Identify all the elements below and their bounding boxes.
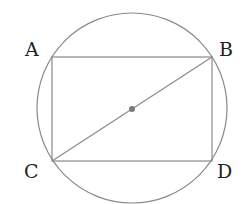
center-point [129, 106, 135, 112]
diagram-canvas: A B C D [0, 0, 252, 204]
vertex-label-a: A [24, 38, 39, 60]
geometry-figure: A B C D [0, 0, 252, 204]
vertex-label-d: D [217, 160, 232, 182]
vertex-label-c: C [24, 160, 39, 182]
vertex-label-b: B [219, 38, 233, 60]
